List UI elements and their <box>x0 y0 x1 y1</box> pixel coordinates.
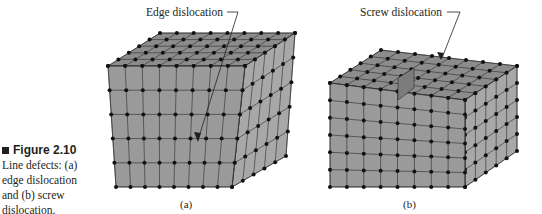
crystal-diagrams <box>0 0 542 214</box>
edge-dislocation-lattice <box>106 31 297 189</box>
screw-dislocation-lattice <box>328 48 519 189</box>
